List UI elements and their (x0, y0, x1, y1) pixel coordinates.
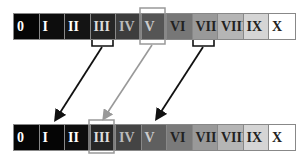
bracket-vii (193, 40, 214, 46)
highlight-box-top (140, 8, 165, 44)
bracket-iii (92, 40, 113, 46)
highlight-box-bottom (89, 120, 114, 153)
mapping-arrows (0, 0, 305, 159)
arrow-v-to-iii (104, 45, 152, 118)
arrow-iii-to-i (56, 47, 102, 119)
arrow-vii-to-v (157, 47, 203, 118)
